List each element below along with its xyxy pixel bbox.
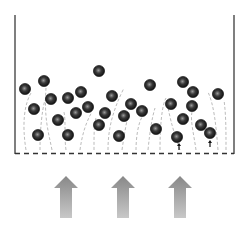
- particle: [82, 101, 93, 112]
- particle: [113, 130, 124, 141]
- particle-arrow-head: [208, 140, 212, 143]
- particle: [186, 100, 197, 111]
- particle: [106, 90, 117, 101]
- flow-line: [224, 100, 226, 150]
- particle: [177, 76, 188, 87]
- particle: [75, 86, 86, 97]
- particle: [62, 129, 73, 140]
- flow-line: [24, 93, 31, 150]
- particle: [136, 105, 147, 116]
- flow-line: [160, 98, 166, 150]
- fluidized-bed-diagram: [0, 0, 245, 227]
- flow-line: [80, 112, 92, 150]
- inflow-arrow-left: [54, 176, 78, 218]
- particle: [70, 107, 81, 118]
- gas-inflow-arrows: [54, 176, 192, 218]
- particle: [52, 114, 63, 125]
- inflow-arrow-right: [168, 176, 192, 218]
- particle: [171, 131, 182, 142]
- particle: [99, 107, 110, 118]
- particle: [28, 103, 39, 114]
- particles: [19, 65, 223, 142]
- particle: [32, 129, 43, 140]
- particle: [144, 79, 155, 90]
- particle: [212, 88, 223, 99]
- particle: [150, 123, 161, 134]
- flow-line: [40, 100, 45, 150]
- particle: [125, 98, 136, 109]
- particle: [195, 119, 206, 130]
- particle: [93, 119, 104, 130]
- inflow-arrow-center: [111, 176, 135, 218]
- particle-motion-arrows: [177, 140, 212, 150]
- particle: [45, 93, 56, 104]
- particle: [165, 98, 176, 109]
- particle: [93, 65, 104, 76]
- particle: [187, 86, 198, 97]
- particle: [62, 92, 73, 103]
- particle: [204, 127, 215, 138]
- particle: [19, 83, 30, 94]
- particle: [118, 110, 129, 121]
- particle: [177, 113, 188, 124]
- flow-line: [191, 112, 196, 150]
- particle: [38, 75, 49, 86]
- flow-line: [136, 117, 142, 150]
